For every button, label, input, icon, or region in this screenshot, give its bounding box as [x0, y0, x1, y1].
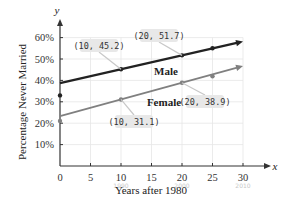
- x-axis-symbol: x: [272, 160, 278, 172]
- male-data-point: [58, 93, 62, 97]
- x-tick-label: 15: [146, 172, 157, 183]
- x-axis-arrow-icon: [264, 163, 271, 169]
- y-axis-title: Percentage Never Married: [16, 43, 28, 160]
- callout-text: (20, 38.9): [179, 97, 230, 107]
- series-lines: [58, 40, 243, 123]
- point-callout: (10, 45.2): [73, 39, 124, 69]
- callout-leader: [182, 83, 205, 95]
- year-annotation: 2010: [235, 182, 250, 189]
- y-axis-symbol: y: [54, 4, 60, 16]
- female-data-point: [58, 119, 62, 123]
- male-arrow-icon: [235, 40, 243, 46]
- callouts: (10, 45.2)(20, 51.7)(10, 31.1)(20, 38.9): [73, 29, 230, 128]
- female-label: Female: [147, 96, 181, 108]
- callout-text: (10, 45.2): [73, 41, 124, 51]
- x-tick-label: 25: [207, 172, 218, 183]
- callout-leader: [99, 52, 121, 69]
- x-axis-title: Years after 1980: [115, 184, 188, 196]
- point-callout: (20, 38.9): [179, 83, 230, 108]
- x-tick-label: 5: [88, 172, 93, 183]
- y-axis-arrow-icon: [57, 19, 63, 26]
- y-tick-label: 50%: [35, 54, 55, 65]
- x-tick-label: 0: [57, 172, 62, 183]
- callout-leader: [159, 42, 182, 55]
- point-callout: (20, 51.7): [133, 29, 184, 55]
- female-data-point: [210, 74, 214, 78]
- y-tick-label: 40%: [35, 75, 55, 86]
- series-labels: MaleFemale: [147, 65, 181, 108]
- line-chart: 05101520253010%20%30%40%50%60%1990200020…: [0, 0, 283, 214]
- callout-text: (20, 51.7): [133, 31, 184, 41]
- y-tick-label: 20%: [35, 118, 55, 129]
- y-tick-label: 10%: [35, 139, 55, 150]
- female-arrow-icon: [235, 65, 243, 71]
- y-tick-label: 30%: [35, 96, 55, 107]
- y-tick-label: 60%: [35, 32, 55, 43]
- callout-text: (10, 31.1): [108, 117, 159, 127]
- male-data-point: [210, 46, 214, 50]
- male-label: Male: [154, 65, 178, 77]
